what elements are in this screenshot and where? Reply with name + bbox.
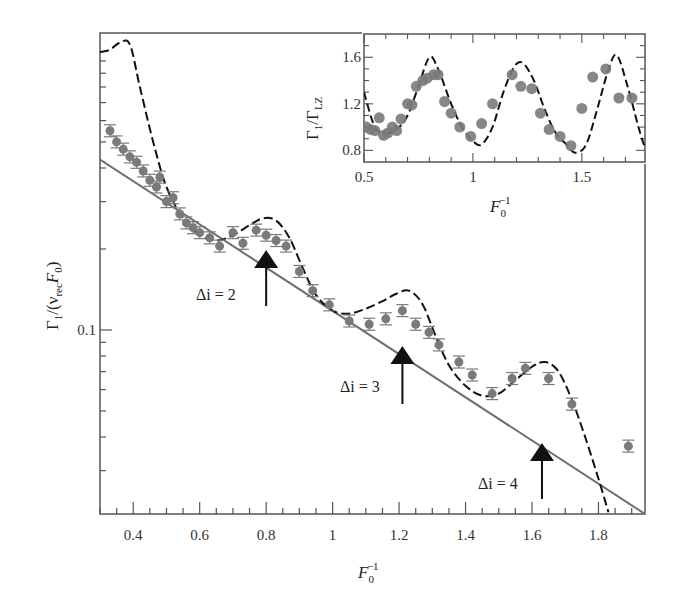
inset-data-marker xyxy=(391,125,402,136)
x-tick-label: 1.6 xyxy=(523,527,542,543)
data-marker xyxy=(145,176,154,185)
data-marker xyxy=(424,328,433,337)
data-marker xyxy=(215,242,224,251)
inset-data-marker xyxy=(433,69,444,80)
inset-x-tick-label: 0.5 xyxy=(355,169,374,185)
main-x-axis-label: F0−1 xyxy=(357,560,379,585)
data-marker xyxy=(282,242,291,251)
data-point xyxy=(410,318,422,330)
data-point xyxy=(506,373,518,385)
inset-data-marker xyxy=(476,118,487,129)
inset-background xyxy=(362,32,647,164)
svg-text:F0−1: F0−1 xyxy=(489,194,511,219)
data-marker xyxy=(411,320,420,329)
inset-data-marker xyxy=(526,83,537,94)
svg-text:Γ1/ΓLZ: Γ1/ΓLZ xyxy=(303,96,324,140)
data-marker xyxy=(468,371,477,380)
inset-data-marker xyxy=(465,131,476,142)
data-point xyxy=(543,373,555,385)
data-marker xyxy=(169,193,178,202)
data-marker xyxy=(521,364,530,373)
data-point xyxy=(519,362,531,374)
data-marker xyxy=(434,340,443,349)
data-point xyxy=(466,369,478,381)
data-point xyxy=(363,318,375,330)
data-point xyxy=(453,356,465,368)
data-marker xyxy=(365,320,374,329)
data-marker xyxy=(112,137,121,146)
inset-data-marker xyxy=(565,140,576,151)
annotation-delta-i-3: Δi = 3 xyxy=(340,378,380,395)
data-marker xyxy=(381,314,390,323)
inset-data-marker xyxy=(439,96,450,107)
data-marker xyxy=(544,374,553,383)
inset-y-axis-label: Γ1/ΓLZ xyxy=(303,96,324,140)
inset-data-marker xyxy=(535,108,546,119)
inset-x-axis-label: F0−1 xyxy=(489,194,511,219)
data-marker xyxy=(252,226,261,235)
inset-data-marker xyxy=(587,72,598,83)
data-marker xyxy=(119,145,128,154)
data-marker xyxy=(325,300,334,309)
main-y-axis-label: Γ1/(νrecF0) xyxy=(43,262,64,330)
data-point xyxy=(137,165,149,177)
y-tick-label: 0.1 xyxy=(77,322,96,338)
inset-y-tick-label: 1.6 xyxy=(342,49,361,65)
inset-data-marker xyxy=(454,122,465,133)
chart-canvas: 0.40.60.811.21.41.61.80.1 0.511.50.81.21… xyxy=(0,0,679,603)
data-point xyxy=(433,339,445,351)
data-point xyxy=(293,265,305,277)
inset-data-marker xyxy=(374,112,385,123)
data-point xyxy=(214,240,226,252)
data-point xyxy=(380,313,392,325)
inset-data-marker xyxy=(544,124,555,135)
data-point xyxy=(104,125,116,137)
x-tick-label: 0.8 xyxy=(257,527,276,543)
data-marker xyxy=(567,400,576,409)
data-marker xyxy=(398,306,407,315)
data-point xyxy=(396,305,408,317)
inset-data-marker xyxy=(600,63,611,74)
arrow-head-icon xyxy=(254,250,278,268)
data-point xyxy=(622,440,634,452)
data-marker xyxy=(454,358,463,367)
inset-plot: 0.511.50.81.21.6 xyxy=(342,32,647,185)
x-tick-label: 1.4 xyxy=(456,527,475,543)
annotation-delta-i-4: Δi = 4 xyxy=(478,475,518,492)
x-tick-label: 0.6 xyxy=(190,527,209,543)
inset-y-tick-label: 1.2 xyxy=(342,96,361,112)
svg-text:Γ1/(νrecF0): Γ1/(νrecF0) xyxy=(43,262,64,330)
data-marker xyxy=(105,126,114,135)
inset-data-marker xyxy=(487,98,498,109)
inset-y-tick-label: 0.8 xyxy=(342,142,361,158)
data-marker xyxy=(205,233,214,242)
data-point xyxy=(566,398,578,410)
inset-x-tick-label: 1 xyxy=(469,169,477,185)
data-marker xyxy=(155,173,164,182)
inset-x-tick-label: 1.5 xyxy=(572,169,591,185)
inset-data-marker xyxy=(576,103,587,114)
inset-data-marker xyxy=(396,113,407,124)
data-point xyxy=(486,388,498,400)
inset-data-marker xyxy=(555,131,566,142)
data-point xyxy=(250,224,262,236)
data-marker xyxy=(295,267,304,276)
inset-data-marker xyxy=(515,81,526,92)
data-marker xyxy=(152,182,161,191)
data-marker xyxy=(262,231,271,240)
x-tick-label: 1.8 xyxy=(589,527,608,543)
data-marker xyxy=(508,374,517,383)
data-marker xyxy=(238,239,247,248)
data-point xyxy=(323,299,335,311)
x-tick-label: 0.4 xyxy=(124,527,143,543)
data-marker xyxy=(345,316,354,325)
annotation-arrow-2 xyxy=(254,250,278,306)
inset-data-marker xyxy=(613,93,624,104)
inset-data-marker xyxy=(406,99,417,110)
annotation-delta-i-2: Δi = 2 xyxy=(196,286,236,303)
data-marker xyxy=(488,389,497,398)
data-marker xyxy=(195,228,204,237)
x-tick-label: 1 xyxy=(329,527,337,543)
data-marker xyxy=(228,228,237,237)
data-point xyxy=(260,229,272,241)
